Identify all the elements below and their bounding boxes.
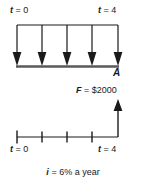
lower-start-time-variable: t xyxy=(10,144,13,154)
cash-flow-diagram: t = 0 t = 4 A F = $2000 t = 0 t = 4 i = … xyxy=(0,0,146,191)
lower-end-time-variable: t xyxy=(98,144,101,154)
interest-rate-variable: i xyxy=(46,167,49,177)
upper-end-time-value: = 4 xyxy=(104,5,117,15)
lower-end-time-label: t = 4 xyxy=(98,145,116,154)
down-arrow-head-1 xyxy=(13,52,22,66)
diagram-canvas xyxy=(0,0,146,191)
future-value-label: F = $2000 xyxy=(76,86,117,95)
upper-start-time-label: t = 0 xyxy=(10,6,28,15)
down-arrow-head-3 xyxy=(63,52,72,66)
future-value-variable: F xyxy=(76,85,82,95)
interest-rate-caption: i = 6% a year xyxy=(0,168,146,177)
lower-end-time-value: = 4 xyxy=(104,144,117,154)
annuity-series-label: A xyxy=(113,68,120,78)
up-arrow-head xyxy=(114,99,123,111)
down-arrow-head-2 xyxy=(38,52,47,66)
down-arrow-head-5 xyxy=(114,52,123,66)
down-arrow-head-4 xyxy=(88,52,97,66)
lower-start-time-label: t = 0 xyxy=(10,145,28,154)
upper-end-time-variable: t xyxy=(98,5,101,15)
lower-timeline-group xyxy=(17,99,122,144)
future-value-amount: = $2000 xyxy=(84,85,117,95)
upper-end-time-label: t = 4 xyxy=(98,6,116,15)
lower-start-time-value: = 0 xyxy=(16,144,29,154)
upper-start-time-value: = 0 xyxy=(16,5,29,15)
interest-rate-value: = 6% a year xyxy=(51,167,99,177)
upper-timeline-group xyxy=(13,25,123,67)
upper-start-time-variable: t xyxy=(10,5,13,15)
